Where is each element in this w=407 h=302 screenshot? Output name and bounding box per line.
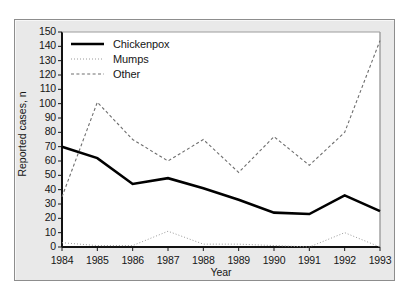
legend-item: Chickenpox — [71, 36, 169, 51]
dashed-line-icon — [71, 68, 104, 80]
series-line-mumps — [62, 231, 380, 247]
solid-line-icon — [71, 38, 104, 50]
legend-label: Mumps — [113, 53, 149, 65]
legend-item: Mumps — [71, 51, 169, 66]
series-line-chickenpox — [62, 147, 380, 214]
legend-label: Chickenpox — [113, 38, 169, 50]
chart-plot — [0, 0, 407, 302]
chart-legend: ChickenpoxMumpsOther — [71, 36, 169, 81]
legend-item: Other — [71, 66, 169, 81]
legend-label: Other — [113, 68, 140, 80]
figure-container: 0102030405060708090100110120130140150 19… — [0, 0, 407, 302]
dotted-line-icon — [71, 53, 104, 65]
